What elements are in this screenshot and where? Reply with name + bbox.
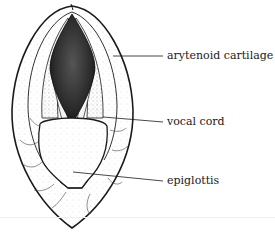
larynx-diagram: arytenoid cartilage vocal cord epiglotti… bbox=[0, 0, 275, 239]
faint-divider bbox=[0, 217, 275, 218]
larynx-illustration bbox=[0, 0, 275, 239]
label-epiglottis: epiglottis bbox=[167, 175, 219, 187]
label-vocal-cord: vocal cord bbox=[167, 116, 225, 128]
label-arytenoid-cartilage: arytenoid cartilage bbox=[167, 50, 273, 62]
